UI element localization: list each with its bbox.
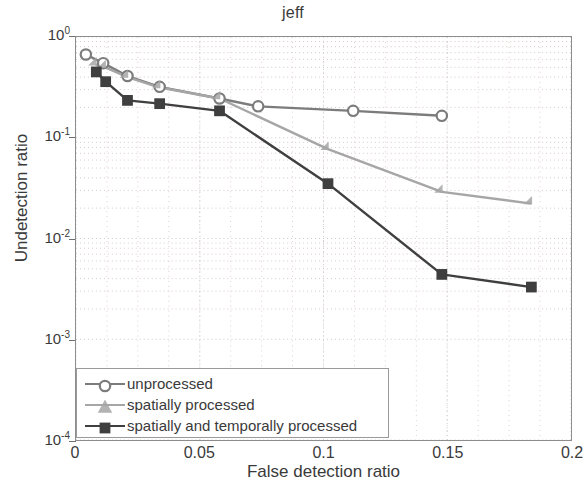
x-tick-label: 0.2 [542, 444, 586, 462]
y-tick-label: 100 [8, 25, 70, 43]
legend-label: unprocessed [127, 374, 213, 394]
y-tick-label: 10-2 [8, 228, 70, 246]
figure: jeff Undetection ratio False detection r… [0, 0, 586, 486]
legend-item[interactable]: unprocessed [83, 373, 382, 394]
x-tick-label: 0.05 [169, 444, 229, 462]
legend: unprocessedspatially processedspatially … [76, 368, 389, 438]
x-tick-label: 0.1 [294, 444, 354, 462]
legend-triangle-icon [83, 395, 127, 415]
y-tick-label: 10-1 [8, 126, 70, 144]
x-tick-label: 0 [45, 444, 105, 462]
legend-item[interactable]: spatially and temporally processed [83, 415, 382, 436]
y-tick-label: 10-3 [8, 329, 70, 347]
x-axis-label: False detection ratio [75, 462, 572, 482]
y-tick-mark [69, 441, 76, 442]
legend-square-icon [83, 416, 127, 436]
legend-label: spatially processed [127, 395, 255, 415]
legend-circle-icon [83, 374, 127, 394]
legend-item[interactable]: spatially processed [83, 394, 382, 415]
chart-title: jeff [0, 4, 586, 22]
legend-label: spatially and temporally processed [127, 416, 357, 436]
x-tick-label: 0.15 [418, 444, 478, 462]
